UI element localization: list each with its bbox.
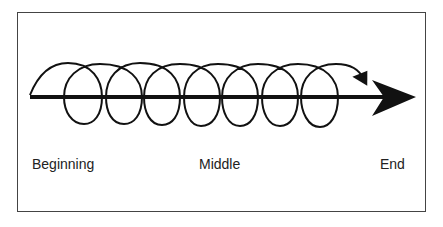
label-end: End <box>380 156 405 172</box>
spiral-timeline-diagram <box>0 0 443 227</box>
spiral-arrowhead-icon <box>351 69 369 86</box>
label-middle: Middle <box>199 156 240 172</box>
label-beginning: Beginning <box>32 156 94 172</box>
